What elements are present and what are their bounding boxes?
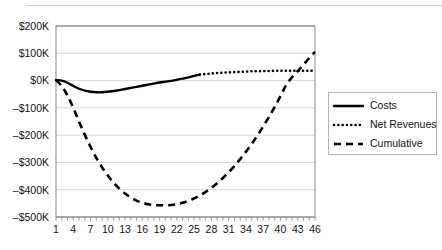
x-axis-minor-ticks — [56, 217, 315, 221]
x-axis-tick-label: 16 — [136, 223, 148, 235]
y-axis-tick-label: $100K — [19, 47, 49, 59]
y-axis-tick-label: –$500K — [13, 211, 49, 223]
top-divider-rule — [26, 5, 442, 6]
x-axis-tick-label: 4 — [70, 223, 76, 235]
x-axis-tick-label: 13 — [119, 223, 131, 235]
x-axis-tick-label: 46 — [309, 223, 321, 235]
x-axis-tick-label: 7 — [88, 223, 94, 235]
x-axis-tick-label: 19 — [154, 223, 166, 235]
x-axis-tick-label: 31 — [223, 223, 235, 235]
y-axis-tick-label: $200K — [19, 20, 49, 32]
x-axis-tick-label: 1 — [53, 223, 59, 235]
x-axis-tick-label: 34 — [240, 223, 252, 235]
x-axis-tick-label: 28 — [206, 223, 218, 235]
y-axis-tick-label: $0K — [30, 74, 49, 86]
y-axis-tick-label: –$300K — [13, 156, 49, 168]
y-axis-tick-label: –$400K — [13, 184, 49, 196]
x-axis-tick-label: 25 — [188, 223, 200, 235]
y-axis-tick-label: –$100K — [13, 102, 49, 114]
x-axis-tick-label: 10 — [102, 223, 114, 235]
chart-legend: CostsNet RevenuesCumulative — [329, 93, 437, 155]
y-axis-tick-label: –$200K — [13, 129, 49, 141]
x-axis-tick-label: 40 — [275, 223, 287, 235]
x-axis-tick-labels: 14710131619222528313437404346 — [53, 223, 321, 235]
legend-label-net-revenues: Net Revenues — [370, 118, 437, 130]
x-axis-tick-label: 37 — [257, 223, 269, 235]
x-axis-tick-label: 43 — [292, 223, 304, 235]
plot-background — [56, 26, 315, 217]
legend-label-costs: Costs — [370, 99, 397, 111]
y-axis-tick-labels: $200K$100K$0K–$100K–$200K–$300K–$400K–$5… — [13, 20, 49, 223]
line-chart: $200K$100K$0K–$100K–$200K–$300K–$400K–$5… — [0, 0, 442, 250]
legend-label-cumulative: Cumulative — [370, 137, 423, 149]
x-axis-tick-label: 22 — [171, 223, 183, 235]
chart-figure: $200K$100K$0K–$100K–$200K–$300K–$400K–$5… — [0, 0, 442, 250]
